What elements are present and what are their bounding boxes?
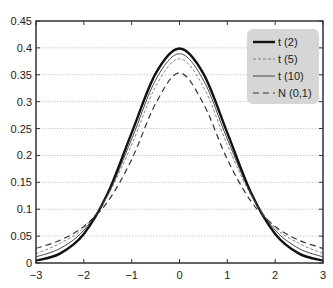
legend-label: t (10) xyxy=(278,70,304,82)
y-tick-label: 0.1 xyxy=(17,203,32,215)
legend: t (2)t (5)t (10)N (0,1) xyxy=(247,29,319,104)
density-chart: 00.050.10.150.20.250.30.350.40.45 −3−2−1… xyxy=(0,0,333,288)
legend-label: t (5) xyxy=(278,53,298,65)
x-tick-label: 2 xyxy=(272,269,278,281)
y-tick-label: 0 xyxy=(26,257,32,269)
x-tick-label: 0 xyxy=(176,269,182,281)
y-tick-label: 0.25 xyxy=(11,123,32,135)
x-tick-label: 1 xyxy=(224,269,230,281)
y-tick-label: 0.15 xyxy=(11,176,32,188)
x-tick-label: 3 xyxy=(320,269,326,281)
legend-label: t (2) xyxy=(278,36,298,48)
y-tick-label: 0.3 xyxy=(17,96,32,108)
y-tick-label: 0.35 xyxy=(11,69,32,81)
y-tick-label: 0.2 xyxy=(17,149,32,161)
legend-label: N (0,1) xyxy=(278,87,312,99)
y-tick-label: 0.45 xyxy=(11,15,32,27)
x-tick-label: −1 xyxy=(125,269,138,281)
x-tick-label: −3 xyxy=(30,269,43,281)
y-tick-label: 0.4 xyxy=(17,42,32,54)
x-tick-label: −2 xyxy=(78,269,91,281)
y-tick-label: 0.05 xyxy=(11,230,32,242)
